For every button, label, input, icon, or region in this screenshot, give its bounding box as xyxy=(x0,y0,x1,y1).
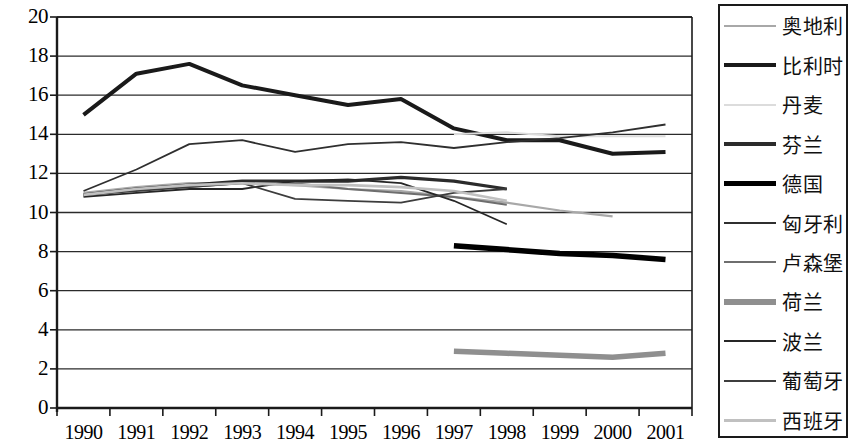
y-axis-tick-label: 10 xyxy=(4,202,48,223)
legend-box: 奥地利比利时丹麦芬兰德国匈牙利卢森堡荷兰波兰葡萄牙西班牙 xyxy=(718,4,848,438)
legend-item[interactable]: 匈牙利 xyxy=(720,205,846,241)
legend-swatch-line-icon xyxy=(724,419,776,422)
x-axis-tick-label: 1998 xyxy=(480,422,533,442)
legend-item[interactable]: 西班牙 xyxy=(720,402,846,438)
legend-swatch-line-icon xyxy=(724,181,776,187)
legend-swatch-line-icon xyxy=(724,299,776,305)
gridlines xyxy=(50,17,692,408)
legend-item-label: 西班牙 xyxy=(782,406,844,435)
legend-item[interactable]: 奥地利 xyxy=(720,8,846,44)
legend-item[interactable]: 葡萄牙 xyxy=(720,363,846,399)
y-axis-tick-label: 12 xyxy=(4,162,48,183)
chart-screenshot: 02468101214161820 1990199119921993199419… xyxy=(0,0,852,442)
y-axis-tick-label: 20 xyxy=(4,6,48,27)
legend-item[interactable]: 荷兰 xyxy=(720,284,846,320)
legend-item-label: 葡萄牙 xyxy=(782,366,844,395)
legend-item-label: 丹麦 xyxy=(782,90,823,119)
series-line xyxy=(454,246,666,260)
legend-item[interactable]: 卢森堡 xyxy=(720,244,846,280)
legend-item[interactable]: 德国 xyxy=(720,166,846,202)
line-chart: 02468101214161820 1990199119921993199419… xyxy=(0,0,712,442)
legend-item[interactable]: 芬兰 xyxy=(720,126,846,162)
legend-swatch-line-icon xyxy=(724,63,776,67)
legend-item-label: 波兰 xyxy=(782,327,823,356)
legend-swatch-line-icon xyxy=(724,25,776,27)
x-axis-tick-label: 1996 xyxy=(375,422,428,442)
y-axis-tick-label: 8 xyxy=(4,241,48,262)
y-axis-tick-label: 4 xyxy=(4,319,48,340)
legend-swatch-line-icon xyxy=(724,380,776,382)
legend-item[interactable]: 丹麦 xyxy=(720,87,846,123)
y-axis-tick-label: 16 xyxy=(4,84,48,105)
y-axis-tick-label: 0 xyxy=(4,397,48,418)
legend-swatch-line-icon xyxy=(724,222,776,224)
x-axis-tick-label: 1994 xyxy=(269,422,322,442)
x-axis-tick-label: 2000 xyxy=(586,422,639,442)
x-axis-tick-label: 1997 xyxy=(427,422,480,442)
legend-item[interactable]: 波兰 xyxy=(720,323,846,359)
data-series-layer xyxy=(84,64,666,357)
x-axis-tick-label: 2001 xyxy=(639,422,692,442)
legend-item-label: 荷兰 xyxy=(782,287,823,316)
x-axis-tick-label: 1990 xyxy=(57,422,110,442)
x-axis-tick-label: 1995 xyxy=(322,422,375,442)
legend-item[interactable]: 比利时 xyxy=(720,47,846,83)
plot-canvas xyxy=(0,0,712,442)
legend-item-label: 匈牙利 xyxy=(782,209,844,238)
x-axis-tick-label: 1991 xyxy=(110,422,163,442)
x-axis-ticks xyxy=(57,408,692,416)
legend-item-label: 比利时 xyxy=(782,51,844,80)
legend-swatch-line-icon xyxy=(724,340,776,342)
legend-item-label: 卢森堡 xyxy=(782,248,844,277)
y-axis-tick-label: 6 xyxy=(4,280,48,301)
x-axis-tick-label: 1999 xyxy=(533,422,586,442)
y-axis-tick-label: 14 xyxy=(4,123,48,144)
y-axis-tick-label: 18 xyxy=(4,45,48,66)
x-axis-tick-label: 1992 xyxy=(163,422,216,442)
legend-item-label: 奥地利 xyxy=(782,11,844,40)
legend-swatch-line-icon xyxy=(724,104,776,106)
legend-item-label: 德国 xyxy=(782,169,823,198)
x-axis-tick-label: 1993 xyxy=(216,422,269,442)
legend-swatch-line-icon xyxy=(724,142,776,145)
legend-item-label: 芬兰 xyxy=(782,130,823,159)
series-line xyxy=(84,64,666,154)
series-line xyxy=(454,351,666,357)
legend-swatch-line-icon xyxy=(724,261,776,263)
y-axis-tick-label: 2 xyxy=(4,358,48,379)
